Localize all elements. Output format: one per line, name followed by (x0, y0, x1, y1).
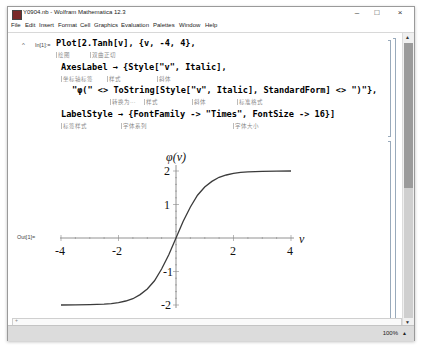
close-button[interactable]: × (393, 8, 407, 17)
menu-file[interactable]: File (11, 22, 21, 28)
y-tick-label: 2 (164, 164, 170, 178)
group-cell-bracket[interactable] (393, 38, 396, 325)
output-cell-bracket[interactable] (388, 141, 391, 323)
menu-window[interactable]: Window (179, 22, 200, 28)
x-axis-label: v (299, 232, 305, 246)
minimize-button[interactable]: – (350, 8, 364, 17)
x-tick-label: -2 (112, 244, 122, 258)
scroll-track[interactable] (404, 188, 413, 318)
y-axis-label: φ(v) (166, 150, 186, 164)
scroll-thumb[interactable] (404, 43, 413, 188)
add-cell-icon[interactable]: + (15, 317, 18, 323)
input-cell-bracket[interactable] (388, 40, 391, 137)
title-bar: Y0904.nb - Wolfram Mathematica 12.3 – □ … (8, 7, 414, 21)
menu-edit[interactable]: Edit (25, 22, 35, 28)
menu-format[interactable]: Format (58, 22, 77, 28)
x-tick-label: 4 (287, 244, 293, 258)
y-tick-label: 1 (164, 198, 170, 212)
menu-insert[interactable]: Insert (39, 22, 54, 28)
menu-cell[interactable]: Cell (80, 22, 90, 28)
x-tick-label: 2 (230, 244, 236, 258)
menu-bar: File Edit Insert Format Cell Graphics Ev… (8, 21, 414, 33)
maximize-button[interactable]: □ (370, 8, 384, 17)
scroll-up-icon[interactable]: ▲ (405, 34, 410, 40)
notebook-content[interactable]: ^ In[1]:= Plot[2.Tanh[v], {v, -4, 4}, 绘图… (8, 33, 401, 325)
tanh-plot[interactable]: -4 -2 2 4 2 1 -1 -2 φ(v) v (8, 33, 401, 325)
menu-help[interactable]: Help (205, 22, 217, 28)
zoom-menu-arrow-icon[interactable]: ▲ (402, 330, 407, 336)
window-title: Y0904.nb - Wolfram Mathematica 12.3 (23, 9, 126, 15)
y-tick-label: -1 (163, 265, 173, 279)
menu-graphics[interactable]: Graphics (94, 22, 118, 28)
zoom-level[interactable]: 100% (383, 330, 398, 336)
y-tick-label: -2 (161, 298, 171, 312)
x-tick-label: -4 (55, 244, 65, 258)
mathematica-app-icon (12, 10, 22, 20)
mathematica-window: Y0904.nb - Wolfram Mathematica 12.3 – □ … (7, 6, 415, 341)
status-bar: 100% ▲ (8, 325, 414, 341)
menu-palettes[interactable]: Palettes (153, 22, 175, 28)
vertical-scrollbar[interactable]: ▲ ▼ (402, 33, 414, 328)
menu-evaluation[interactable]: Evaluation (121, 22, 149, 28)
